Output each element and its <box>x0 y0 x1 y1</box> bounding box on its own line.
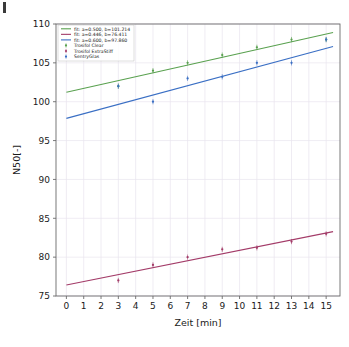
data-point <box>221 247 223 252</box>
data-point <box>256 245 258 250</box>
y-tick-label: 105 <box>33 58 50 68</box>
data-point <box>186 76 188 81</box>
data-point <box>152 262 154 267</box>
data-point <box>256 60 258 65</box>
x-axis-ticks: 0123456789101112131415 <box>64 296 332 311</box>
grid-lines <box>56 24 340 296</box>
x-tick-label: 6 <box>167 301 173 311</box>
x-tick-label: 9 <box>219 301 225 311</box>
chart-plot-area: 7580859095100105110 01234567891011121314… <box>0 0 349 347</box>
chart-figure: 7580859095100105110 01234567891011121314… <box>0 0 349 347</box>
chart-legend: fit: a=0.500, b=101.214fit: a=0.446, b=7… <box>58 25 134 61</box>
y-axis-title: N50[-] <box>11 145 22 175</box>
x-tick-label: 1 <box>81 301 87 311</box>
plot-frame <box>56 24 340 296</box>
y-tick-label: 110 <box>33 19 50 29</box>
data-point <box>117 84 119 89</box>
legend-label: SentryGlas <box>74 54 100 59</box>
legend-label: Trosifol ExtraStiff <box>73 49 114 54</box>
legend-label: fit: a=0.500, b=101.214 <box>74 27 130 32</box>
x-tick-label: 13 <box>286 301 297 311</box>
x-tick-label: 15 <box>320 301 331 311</box>
x-tick-label: 7 <box>185 301 191 311</box>
legend-label: fit: a=0.600, b=97.860 <box>74 38 127 43</box>
legend-label: fit: a=0.446, b=76.411 <box>74 32 127 37</box>
y-tick-label: 85 <box>39 214 50 224</box>
data-point <box>325 37 327 42</box>
data-point <box>117 278 119 283</box>
y-tick-label: 95 <box>39 136 50 146</box>
x-tick-label: 10 <box>234 301 246 311</box>
x-tick-label: 11 <box>251 301 262 311</box>
y-tick-label: 100 <box>33 97 50 107</box>
x-tick-label: 12 <box>268 301 279 311</box>
fit-lines <box>66 32 333 285</box>
x-tick-label: 2 <box>98 301 104 311</box>
data-point <box>290 60 292 65</box>
data-point <box>186 255 188 260</box>
y-axis-ticks: 7580859095100105110 <box>33 19 56 301</box>
x-tick-label: 4 <box>133 301 139 311</box>
x-tick-label: 8 <box>202 301 208 311</box>
y-tick-label: 80 <box>39 252 51 262</box>
x-tick-label: 5 <box>150 301 156 311</box>
legend-label: Trosifol Clear <box>73 43 104 48</box>
x-tick-label: 3 <box>115 301 121 311</box>
data-point <box>221 74 223 79</box>
fit-line <box>66 232 333 285</box>
y-tick-label: 90 <box>39 175 51 185</box>
x-tick-label: 14 <box>303 301 315 311</box>
data-point <box>325 231 327 236</box>
data-point <box>152 99 154 104</box>
y-tick-label: 75 <box>39 291 50 301</box>
x-axis-title: Zeit [min] <box>174 317 221 328</box>
x-tick-label: 0 <box>64 301 70 311</box>
